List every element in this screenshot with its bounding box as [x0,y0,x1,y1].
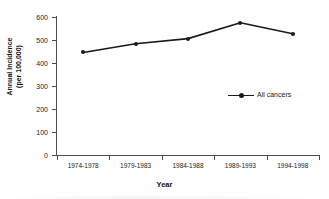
x-axis-line [56,155,320,156]
x-tick-mark [319,155,320,160]
y-tick-label: 100 [8,129,48,136]
x-tick-mark [267,155,268,160]
x-tick-mark [109,155,110,160]
x-tick-mark [57,155,58,160]
chart-figure: … 0100200300400500600 1974-19781979-1983… [0,0,329,199]
chart-legend: All cancers [228,91,291,99]
y-axis-title-line2: (per 100,000) [14,19,23,115]
y-tick-label: 0 [8,152,48,159]
legend-marker-icon [228,91,254,99]
x-tick-mark [162,155,163,160]
y-axis-title: Annual Incidence (per 100,000) [6,19,23,115]
data-point [134,42,138,46]
data-point [186,37,190,41]
scan-edge-artifact [0,196,329,199]
y-axis-title-line1: Annual Incidence [6,19,15,115]
chart-title-cutoff: … [148,0,170,3]
data-point [291,32,295,36]
legend-label-all-cancers: All cancers [257,91,291,99]
x-tick-label: 1994-1998 [260,162,326,170]
x-tick-mark [214,155,215,160]
plot-area [57,17,319,155]
x-axis-title: Year [0,180,329,189]
